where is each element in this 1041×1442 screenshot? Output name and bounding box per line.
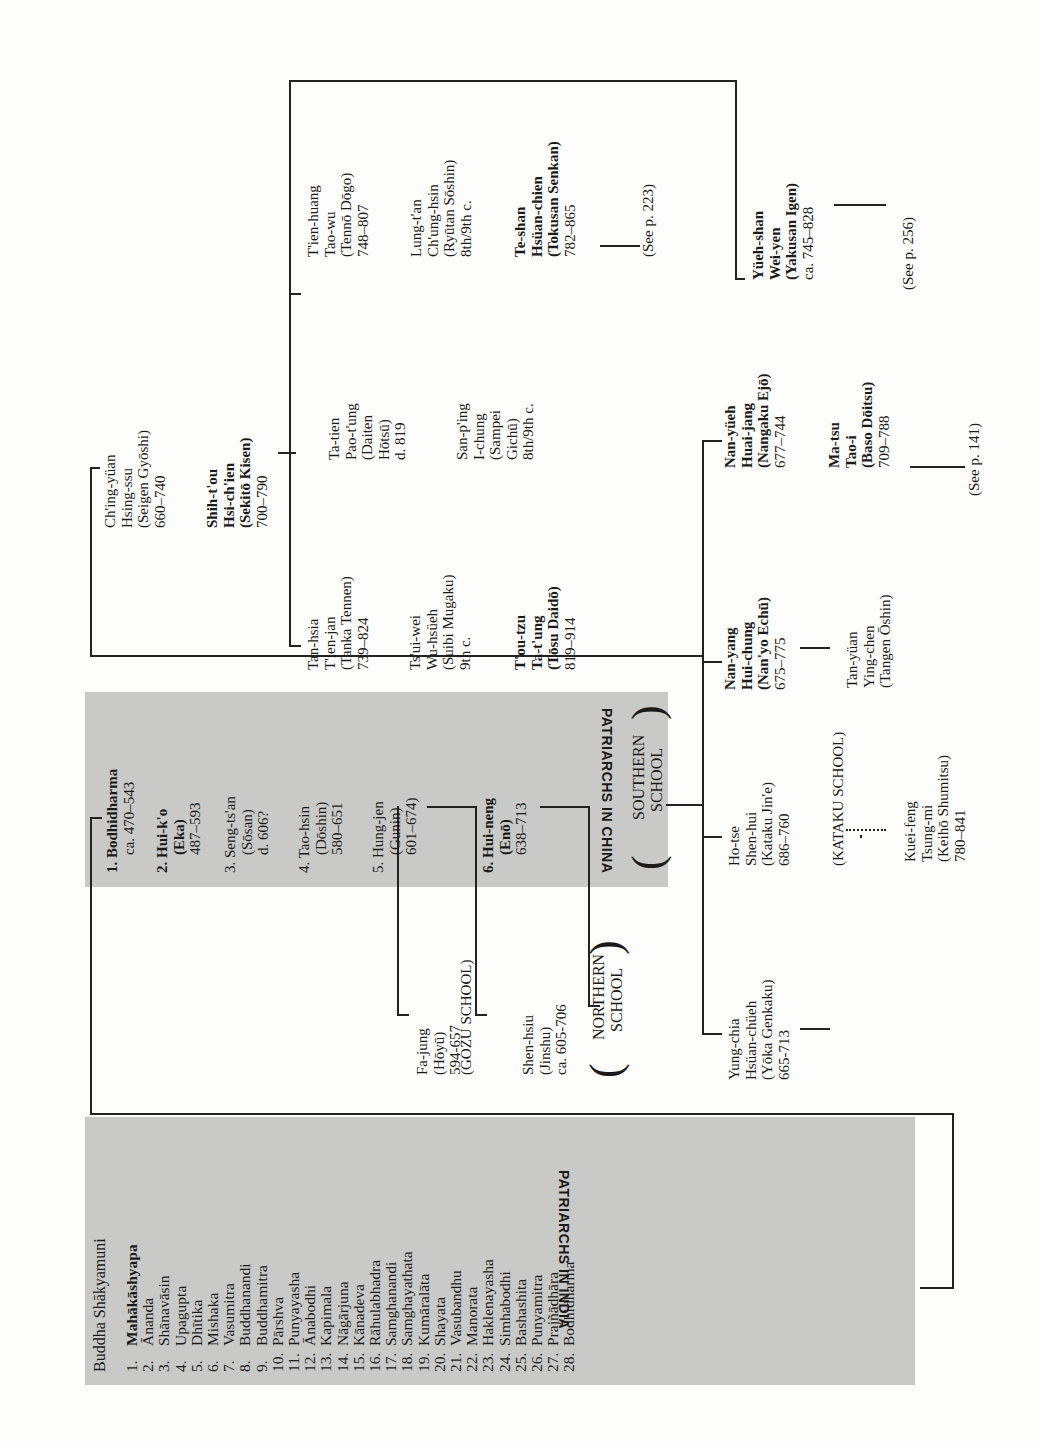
node-ma-tsu: Ma-tsu Tao-i (Baso Dōitsu) 709–788	[826, 382, 892, 468]
connector-line	[702, 440, 722, 442]
india-patriarch-item: 25.Bashashita	[513, 1244, 529, 1372]
india-patriarch-item: 21.Vasubandhu	[448, 1244, 464, 1372]
node-ching-yuan: Ch'ing-yüan Hsing-ssu (Seigen Gyōshi) 66…	[102, 430, 168, 528]
southern-school-label: SOUTHERN SCHOOL	[630, 735, 666, 820]
connector-line	[289, 80, 291, 647]
india-patriarch-item: 9.Buddhamitra	[254, 1244, 270, 1372]
connector-line	[278, 452, 296, 454]
india-patriarch-item: 22.Manorata	[464, 1244, 480, 1372]
china-patriarch-1: 1. Bodhidharma ca. 470–543	[104, 769, 137, 873]
china-patriarch-4: 4. Tao-hsin (Dōshin) 580–651	[296, 802, 346, 873]
see-page-141: (See p. 141)	[966, 423, 983, 496]
node-nan-yueh: Nan-yüeh Huai-jang (Nangaku Ejō) 677–744	[722, 373, 788, 468]
connector-line	[910, 466, 965, 468]
kataku-school-label: (KATAKU SCHOOL)	[830, 732, 847, 866]
india-patriarch-item: 16.Rāhulabhadra	[367, 1244, 383, 1372]
connector-line	[800, 1028, 830, 1030]
india-patriarch-item: 11.Punyayasha	[286, 1244, 302, 1372]
connector-line	[735, 80, 737, 280]
dotted-connector	[860, 835, 862, 836]
southern-school-paren-open: (	[628, 855, 668, 870]
connector-line	[90, 1113, 954, 1115]
node-yung-chia: Yung-chia Hsüan-chüeh (Yōka Genkaku) 665…	[726, 980, 792, 1080]
connector-line	[702, 660, 704, 1035]
connector-line	[475, 806, 477, 1016]
node-tan-hsia: Tan-hsia T'ien-jan (Tanka Tennen) 739–82…	[305, 576, 371, 670]
india-patriarch-item: 23.Haklenayasha	[480, 1244, 496, 1372]
connector-line	[600, 245, 640, 247]
node-shih-tou: Shih-t'ou Hsi-ch'ien (Sekitō Kisen) 700–…	[204, 438, 270, 528]
india-patriarch-item: 6.Mishaka	[205, 1244, 221, 1372]
india-patriarch-item: 7.Vasumitra	[221, 1244, 237, 1372]
dotted-connector	[846, 829, 886, 831]
connector-line	[540, 806, 590, 808]
node-te-shan: Te-shan Hsüan-chien (Tokusan Senkan) 782…	[512, 141, 578, 257]
connector-line	[289, 80, 737, 82]
connector-line	[397, 1014, 409, 1016]
india-root: Buddha Shākyamuni	[92, 1238, 109, 1372]
node-san-ping: San-p'ing I-chung (Sampei Gichū) 8th/9th…	[454, 403, 537, 460]
connector-line	[90, 817, 92, 1115]
india-patriarch-item: 8.Buddhanandi	[237, 1244, 253, 1372]
see-page-256: (See p. 256)	[900, 217, 917, 290]
connector-line	[702, 1033, 722, 1035]
india-patriarch-item: 19.Kumāralāta	[416, 1244, 432, 1372]
connector-line	[427, 806, 477, 808]
node-tien-huang: T'ien-huang Tao-wu (Tennō Dōgo) 748–807	[305, 173, 371, 257]
connector-line	[800, 647, 830, 649]
node-lung-tan: Lung-t'an Ch'ung-hsin (Ryūtan Sōshin) 8t…	[408, 160, 474, 257]
india-patriarch-item: 1.Mahākāshyapa	[124, 1244, 140, 1372]
gozu-school-label: (GOZU SCHOOL)	[458, 960, 475, 1075]
node-ta-tien: Ta-tien Pao-t'ung (Daiten Hōtsū) d. 819	[326, 403, 409, 460]
node-shen-hsiu: Shen-hsiu (Jinshu) ca. 605-706	[520, 1004, 570, 1075]
connector-line	[289, 645, 301, 647]
node-tan-yuan: Tan-yüan Ying-chen (Tangen Ōshin)	[844, 594, 894, 688]
connector-line	[952, 1113, 954, 1288]
india-patriarch-item: 4.Upagupta	[173, 1244, 189, 1372]
india-patriarch-item: 3.Shānavāsin	[156, 1244, 172, 1372]
india-patriarch-item: 15.Kānadeva	[351, 1244, 367, 1372]
china-patriarch-6: 6. Hui-neng (Enō) 638–713	[480, 798, 530, 873]
india-patriarch-list: 1.Mahākāshyapa2.Ānanda3.Shānavāsin4.Upag…	[124, 1244, 578, 1372]
node-fa-jung: Fa-jung (Hōyū) 594-657	[414, 1025, 464, 1075]
india-patriarch-item: 17.Samghanandi	[383, 1244, 399, 1372]
connector-line	[90, 655, 704, 657]
connector-line	[702, 440, 704, 662]
china-patriarch-3: 3. Seng-ts'an (Sōsan) d. 606?	[222, 796, 272, 873]
india-patriarch-item: 26.Punyamitra	[529, 1244, 545, 1372]
india-patriarch-item: 2.Ānanda	[140, 1244, 156, 1372]
node-tou-tzu: T'ou-tzu Ta-t'ung (Tōsu Daidō) 819–914	[512, 586, 578, 670]
southern-school-paren-close: )	[628, 705, 668, 720]
china-heading: PATRIARCHS IN CHINA	[599, 708, 615, 873]
node-kuei-feng: Kuei-feng Tsung-mi (Keihō Shumitsu) 780–…	[902, 755, 968, 862]
node-yueh-shan: Yüeh-shan Wei-yen (Yakusan Igen) ca. 745…	[750, 183, 816, 280]
india-patriarch-item: 24.Simhabodhi	[497, 1244, 513, 1372]
connector-line	[735, 278, 745, 280]
india-patriarch-item: 5.Dhītika	[189, 1244, 205, 1372]
india-patriarch-item: 28.Bodhidharma	[561, 1244, 577, 1372]
india-patriarch-item: 27.Prajñādhāra	[545, 1244, 561, 1372]
india-patriarch-item: 14.Nāgārjuna	[335, 1244, 351, 1372]
northern-school-label: NORTHERN SCHOOL	[590, 954, 626, 1040]
india-patriarch-item: 18.Samghayathata	[399, 1244, 415, 1372]
connector-line	[834, 204, 886, 206]
northern-school-paren-close: )	[586, 940, 626, 955]
china-patriarch-5: 5. Hung-jen (Gunin) 601–674)	[370, 798, 420, 874]
connector-line	[90, 467, 92, 657]
node-tsui-wei: Ts'ui-wei Wu-hsüeh (Suibi Mugaku) 9th c.	[407, 575, 473, 670]
connector-line	[920, 1287, 954, 1289]
china-patriarch-2: 2. Hui-k'o (Eka) 487–593	[154, 803, 204, 874]
connector-line	[702, 661, 722, 663]
connector-line	[289, 293, 301, 295]
connector-line	[702, 836, 722, 838]
node-ho-tse: Ho-tse Shen-hui (Kataku Jin'e) 686–760	[726, 782, 792, 866]
india-patriarch-item: 20.Shayata	[432, 1244, 448, 1372]
connector-line	[90, 817, 102, 819]
connector-line	[90, 467, 100, 469]
northern-school-paren-open: (	[586, 1063, 626, 1078]
see-page-223: (See p. 223)	[640, 184, 657, 257]
connector-line	[666, 804, 704, 806]
india-patriarch-item: 13.Kapimala	[318, 1244, 334, 1372]
india-patriarch-item: 12.Ānabodhi	[302, 1244, 318, 1372]
connector-line	[475, 1014, 487, 1016]
